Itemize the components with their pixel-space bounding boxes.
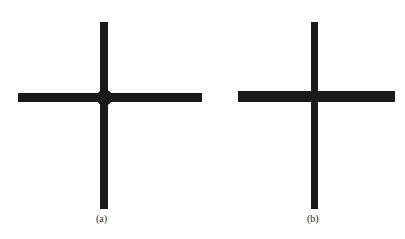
panel-b-vertical-bar: [311, 22, 318, 209]
panel-a-vertical-bar: [100, 22, 108, 209]
panel-b-caption: (b): [307, 213, 319, 224]
panel-a-caption: (a): [96, 213, 107, 224]
panel-a-cross: [18, 22, 202, 209]
panel-b-cross: [238, 22, 395, 209]
panel-a-joint-circle: [97, 90, 113, 106]
figure: (a) (b): [0, 0, 405, 239]
panel-b-horizontal-bar: [238, 91, 395, 102]
figure-canvas: [0, 0, 405, 239]
